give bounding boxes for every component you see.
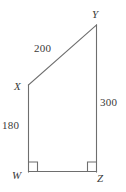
vertex-label-X: X (14, 81, 21, 92)
vertex-label-W: W (12, 170, 21, 181)
side-measure-WX: 180 (2, 120, 19, 131)
right-angle-marker-W (29, 162, 38, 172)
side-measure-YZ: 300 (100, 97, 117, 108)
geometry-figure: Y X W Z 200 300 180 (0, 0, 126, 192)
vertex-label-Z: Z (97, 173, 103, 184)
side-XY-line (29, 25, 97, 85)
vertex-label-Y: Y (92, 9, 98, 20)
side-measure-XY: 200 (34, 43, 51, 54)
right-angle-marker-Z (88, 162, 97, 172)
